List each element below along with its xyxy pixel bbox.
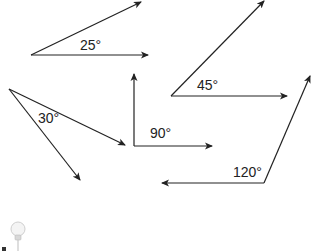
angle-45: 45° <box>171 1 287 96</box>
angle-label: 120° <box>233 164 262 180</box>
angle-label: 30° <box>38 110 59 126</box>
ray-upper <box>9 89 125 145</box>
lightbulb-icon <box>2 222 25 251</box>
ray-lower <box>9 89 80 180</box>
angles-diagram: 25° 45° 30° 90° 120° <box>0 0 318 251</box>
angle-label: 25° <box>80 37 101 53</box>
angle-25: 25° <box>31 2 148 55</box>
angle-120: 120° <box>162 76 310 183</box>
angle-30: 30° <box>9 89 125 180</box>
angle-label: 90° <box>150 125 171 141</box>
ray-upper <box>264 76 310 183</box>
angle-label: 45° <box>197 77 218 93</box>
